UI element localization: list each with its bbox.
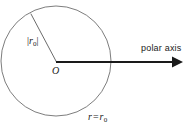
origin-label: O [52, 66, 59, 76]
polar-axis-arrowhead-icon [172, 57, 183, 68]
polar-circle-diagram: |r0| O polar axis r=r0 [0, 0, 190, 130]
circle-equation-label: r=r0 [88, 112, 107, 124]
equation-lhs: r [88, 111, 92, 122]
equation-rhs: r [100, 111, 104, 122]
radius-magnitude-label: |r0| [27, 36, 39, 48]
polar-axis-label: polar axis [141, 44, 182, 53]
abs-bar-close: | [37, 35, 39, 46]
equation-operator: = [93, 111, 99, 122]
equation-rhs-subscript: 0 [104, 116, 108, 124]
